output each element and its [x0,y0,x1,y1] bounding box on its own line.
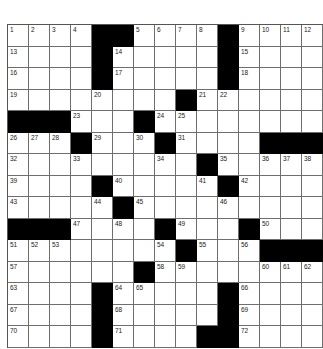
grid-cell[interactable]: 71 [113,326,134,348]
grid-cell[interactable] [113,240,134,262]
grid-cell[interactable] [239,197,260,219]
grid-cell[interactable] [260,90,281,112]
grid-cell[interactable] [260,305,281,327]
grid-cell[interactable] [29,326,50,348]
grid-cell[interactable] [113,90,134,112]
grid-cell[interactable]: 36 [260,154,281,176]
grid-cell[interactable]: 29 [92,133,113,155]
grid-cell[interactable]: 55 [197,240,218,262]
grid-cell[interactable]: 50 [260,219,281,241]
grid-cell[interactable]: 54 [155,240,176,262]
grid-cell[interactable]: 32 [8,154,29,176]
grid-cell[interactable] [176,68,197,90]
grid-cell[interactable]: 63 [8,283,29,305]
grid-cell[interactable]: 12 [302,25,323,47]
grid-cell[interactable]: 11 [281,25,302,47]
grid-cell[interactable] [239,133,260,155]
grid-cell[interactable]: 60 [260,262,281,284]
grid-cell[interactable] [302,283,323,305]
grid-cell[interactable]: 16 [8,68,29,90]
grid-cell[interactable] [239,111,260,133]
grid-cell[interactable] [71,305,92,327]
grid-cell[interactable] [197,68,218,90]
grid-cell[interactable]: 22 [218,90,239,112]
grid-cell[interactable] [50,176,71,198]
grid-cell[interactable] [260,176,281,198]
grid-cell[interactable]: 45 [134,197,155,219]
grid-cell[interactable]: 33 [71,154,92,176]
grid-cell[interactable] [71,68,92,90]
grid-cell[interactable]: 2 [29,25,50,47]
grid-cell[interactable]: 68 [113,305,134,327]
grid-cell[interactable]: 1 [8,25,29,47]
grid-cell[interactable] [302,305,323,327]
grid-cell[interactable] [113,262,134,284]
grid-cell[interactable] [281,90,302,112]
grid-cell[interactable] [155,176,176,198]
grid-cell[interactable]: 61 [281,262,302,284]
grid-cell[interactable]: 6 [155,25,176,47]
grid-cell[interactable] [71,47,92,69]
grid-cell[interactable]: 46 [218,197,239,219]
grid-cell[interactable]: 24 [155,111,176,133]
grid-cell[interactable] [134,68,155,90]
grid-cell[interactable]: 56 [239,240,260,262]
grid-cell[interactable]: 34 [155,154,176,176]
grid-cell[interactable] [239,262,260,284]
grid-cell[interactable] [176,197,197,219]
grid-cell[interactable]: 10 [260,25,281,47]
grid-cell[interactable] [92,262,113,284]
grid-cell[interactable]: 28 [50,133,71,155]
grid-cell[interactable] [176,154,197,176]
grid-cell[interactable]: 21 [197,90,218,112]
grid-cell[interactable] [92,219,113,241]
grid-cell[interactable] [302,90,323,112]
grid-cell[interactable] [29,197,50,219]
grid-cell[interactable]: 14 [113,47,134,69]
grid-cell[interactable] [29,90,50,112]
grid-cell[interactable] [134,305,155,327]
grid-cell[interactable]: 23 [71,111,92,133]
grid-cell[interactable] [281,283,302,305]
grid-cell[interactable] [176,326,197,348]
grid-cell[interactable] [71,326,92,348]
grid-cell[interactable]: 47 [71,219,92,241]
grid-cell[interactable] [155,326,176,348]
grid-cell[interactable] [218,111,239,133]
grid-cell[interactable] [281,111,302,133]
grid-cell[interactable]: 31 [176,133,197,155]
grid-cell[interactable] [134,176,155,198]
grid-cell[interactable]: 37 [281,154,302,176]
grid-cell[interactable] [176,305,197,327]
grid-cell[interactable] [50,68,71,90]
grid-cell[interactable] [113,154,134,176]
grid-cell[interactable]: 59 [176,262,197,284]
grid-cell[interactable] [218,219,239,241]
grid-cell[interactable] [50,197,71,219]
grid-cell[interactable] [29,262,50,284]
grid-cell[interactable] [197,262,218,284]
grid-cell[interactable] [260,326,281,348]
grid-cell[interactable] [176,47,197,69]
grid-cell[interactable] [239,90,260,112]
grid-cell[interactable] [71,283,92,305]
grid-cell[interactable] [29,176,50,198]
grid-cell[interactable] [155,197,176,219]
grid-cell[interactable] [155,68,176,90]
grid-cell[interactable]: 69 [239,305,260,327]
grid-cell[interactable] [239,154,260,176]
grid-cell[interactable]: 48 [113,219,134,241]
grid-cell[interactable] [260,111,281,133]
grid-cell[interactable] [302,197,323,219]
grid-cell[interactable] [92,240,113,262]
grid-cell[interactable]: 25 [176,111,197,133]
grid-cell[interactable] [113,111,134,133]
grid-cell[interactable]: 38 [302,154,323,176]
grid-cell[interactable]: 19 [8,90,29,112]
grid-cell[interactable]: 66 [239,283,260,305]
grid-cell[interactable] [50,47,71,69]
grid-cell[interactable] [302,176,323,198]
grid-cell[interactable] [134,326,155,348]
grid-cell[interactable]: 49 [176,219,197,241]
grid-cell[interactable]: 40 [113,176,134,198]
